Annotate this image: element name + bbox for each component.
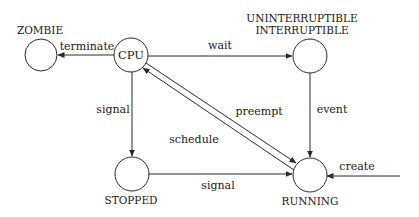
transition-signal-run: signal xyxy=(149,174,292,192)
state-label-running: RUNNING xyxy=(282,195,339,207)
state-running: RUNNING xyxy=(282,158,339,207)
state-zombie: ZOMBIE xyxy=(17,24,63,71)
transition-event: event xyxy=(310,73,348,157)
state-blocked: UNINTERRUPTIBLE INTERRUPTIBLE xyxy=(246,12,357,73)
transition-schedule: schedule xyxy=(143,68,294,170)
state-diagram: terminate wait signal event preempt sche… xyxy=(0,0,419,217)
label-signal-stop: signal xyxy=(96,103,130,116)
state-label-zombie: ZOMBIE xyxy=(17,24,63,36)
state-label-stopped: STOPPED xyxy=(104,194,157,206)
state-label-cpu: CPU xyxy=(118,48,144,62)
label-preempt: preempt xyxy=(235,105,283,118)
label-schedule: schedule xyxy=(169,133,219,146)
label-event: event xyxy=(317,103,348,116)
transition-terminate: terminate xyxy=(58,40,114,55)
state-stopped: STOPPED xyxy=(104,157,157,206)
label-create: create xyxy=(339,160,374,173)
state-cpu: CPU xyxy=(114,38,148,72)
transition-signal-stop: signal xyxy=(96,72,132,156)
state-label-interruptible: INTERRUPTIBLE xyxy=(255,24,348,36)
state-label-uninterruptible: UNINTERRUPTIBLE xyxy=(246,12,357,24)
transition-wait: wait xyxy=(148,39,292,56)
label-signal-run: signal xyxy=(201,179,235,192)
label-wait: wait xyxy=(208,39,232,52)
label-terminate: terminate xyxy=(60,40,115,53)
transition-create: create xyxy=(327,160,400,176)
transition-preempt: preempt xyxy=(146,63,296,163)
